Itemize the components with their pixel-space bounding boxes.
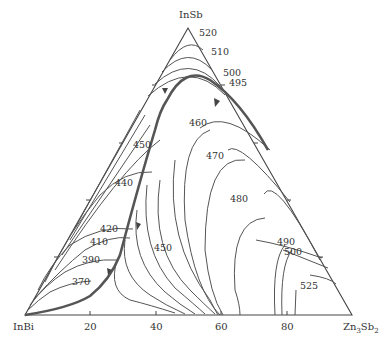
isotherm-label: 525 [300, 280, 318, 291]
arrow-icon [214, 98, 220, 107]
isotherm-label: 500 [284, 246, 302, 257]
vertex-right-label: Zn3Sb2 [343, 321, 379, 335]
vertex-left-label: InBi [13, 321, 34, 332]
right-edge-ticks [221, 85, 323, 257]
arrow-icon [136, 222, 141, 230]
isotherm-label: 495 [229, 77, 247, 88]
isotherm-label: 440 [115, 177, 133, 188]
bottom-axis-ticks [90, 311, 287, 315]
isotherm-label: 450 [154, 242, 172, 253]
isotherm-label: 470 [206, 150, 224, 161]
isotherm-label: 460 [189, 117, 207, 128]
isotherm-label: 420 [100, 223, 118, 234]
arrow-icon [162, 88, 168, 94]
isotherm-label: 480 [230, 193, 248, 204]
isotherm-label: 450 [133, 139, 151, 150]
triangle-frame [25, 28, 352, 315]
tick-label-60: 60 [215, 321, 228, 332]
vertex-top-label: InSb [179, 9, 203, 20]
isotherm-label: 510 [211, 46, 229, 57]
ternary-diagram: InSb InBi Zn3Sb2 20 40 60 80 520 510 500… [0, 0, 389, 343]
tick-label-40: 40 [150, 321, 163, 332]
tick-label-80: 80 [281, 321, 294, 332]
isotherm-label: 520 [199, 27, 217, 38]
isotherm-label: 390 [82, 254, 100, 265]
tick-label-20: 20 [84, 321, 97, 332]
isotherm-label: 410 [90, 236, 108, 247]
isotherm-label: 370 [72, 276, 90, 287]
